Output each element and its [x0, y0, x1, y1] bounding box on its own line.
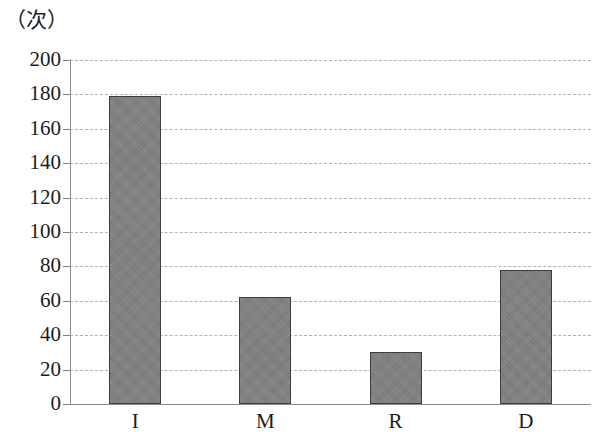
- y-axis-tick-label: 180: [3, 83, 61, 104]
- y-axis-tick: [63, 198, 70, 199]
- y-axis-tick: [63, 94, 70, 95]
- bar: [500, 270, 552, 404]
- gridline: [70, 60, 591, 61]
- x-axis-tick-label: D: [486, 409, 566, 433]
- y-axis-tick: [63, 335, 70, 336]
- y-axis-tick: [63, 129, 70, 130]
- bar-chart: （次） 200180160140120100806040200 IMRD: [0, 0, 593, 436]
- x-axis-tick-label: I: [95, 409, 175, 433]
- y-axis-tick: [63, 404, 70, 405]
- y-axis-tick-label: 160: [3, 118, 61, 139]
- plot-area: [70, 60, 591, 404]
- y-axis-tick-label: 200: [3, 49, 61, 70]
- y-axis-tick: [63, 266, 70, 267]
- bar: [109, 96, 161, 404]
- x-axis-tick-label: R: [356, 409, 436, 433]
- bar: [370, 352, 422, 404]
- y-axis-tick-label: 20: [3, 359, 61, 380]
- y-axis-tick-label: 120: [3, 187, 61, 208]
- gridline: [70, 404, 591, 405]
- y-axis-tick: [63, 232, 70, 233]
- y-axis-tick: [63, 60, 70, 61]
- y-axis-tick-label: 140: [3, 152, 61, 173]
- y-axis-tick: [63, 301, 70, 302]
- y-axis-tick-label: 40: [3, 324, 61, 345]
- bar: [239, 297, 291, 404]
- y-axis-tick: [63, 163, 70, 164]
- y-axis-tick-label: 0: [3, 393, 61, 414]
- y-axis-tick-label: 60: [3, 290, 61, 311]
- y-axis-tick-label: 100: [3, 221, 61, 242]
- x-axis-tick-label: M: [225, 409, 305, 433]
- y-axis-tick-labels: 200180160140120100806040200: [0, 0, 61, 436]
- y-axis-tick-label: 80: [3, 255, 61, 276]
- y-axis-tick: [63, 370, 70, 371]
